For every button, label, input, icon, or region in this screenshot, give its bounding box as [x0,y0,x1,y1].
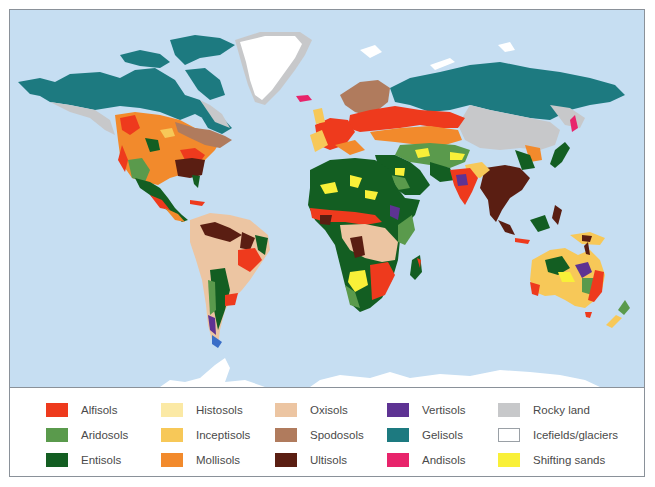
legend-swatch [387,453,409,467]
legend-item-alfisols: Alfisols [46,400,117,420]
legend-label: Oxisols [310,404,348,416]
legend-swatch [46,403,68,417]
legend-swatch [161,403,183,417]
legend-label: Mollisols [196,454,240,466]
legend-label: Shifting sands [533,454,605,466]
legend-swatch [387,428,409,442]
legend-item-ultisols: Ultisols [275,450,347,470]
map-figure: Alfisols Aridosols Entisols Histosols In… [9,9,645,477]
map-legend: Alfisols Aridosols Entisols Histosols In… [10,388,644,476]
legend-item-spodosols: Spodosols [275,425,364,445]
legend-swatch [161,428,183,442]
legend-swatch [498,428,520,442]
new-zealand [606,300,630,328]
legend-label: Andisols [422,454,465,466]
legend-swatch [275,453,297,467]
legend-swatch [161,453,183,467]
world-soil-map [10,10,644,388]
world-map-graphic [10,10,644,387]
legend-swatch [498,453,520,467]
legend-item-andisols: Andisols [387,450,465,470]
legend-item-histosols: Histosols [161,400,243,420]
legend-item-aridosols: Aridosols [46,425,128,445]
legend-label: Spodosols [310,429,364,441]
legend-label: Aridosols [81,429,128,441]
legend-item-mollisols: Mollisols [161,450,240,470]
legend-item-icefields-glaciers: Icefields/glaciers [498,425,618,445]
legend-item-gelisols: Gelisols [387,425,463,445]
antarctica [160,358,600,387]
legend-label: Gelisols [422,429,463,441]
legend-swatch [275,428,297,442]
legend-label: Rocky land [533,404,590,416]
south-america [190,213,270,348]
legend-swatch [387,403,409,417]
legend-item-rocky-land: Rocky land [498,400,590,420]
greenland [235,32,312,105]
legend-label: Icefields/glaciers [533,429,618,441]
legend-label: Entisols [81,454,121,466]
legend-item-oxisols: Oxisols [275,400,348,420]
legend-item-entisols: Entisols [46,450,121,470]
legend-swatch [46,428,68,442]
legend-label: Inceptisols [196,429,250,441]
australia [530,242,605,318]
legend-swatch [275,403,297,417]
legend-label: Histosols [196,404,243,416]
legend-item-inceptisols: Inceptisols [161,425,250,445]
legend-label: Vertisols [422,404,465,416]
legend-label: Alfisols [81,404,117,416]
legend-item-shifting-sands: Shifting sands [498,450,605,470]
legend-swatch [498,403,520,417]
legend-label: Ultisols [310,454,347,466]
legend-item-vertisols: Vertisols [387,400,465,420]
legend-swatch [46,453,68,467]
